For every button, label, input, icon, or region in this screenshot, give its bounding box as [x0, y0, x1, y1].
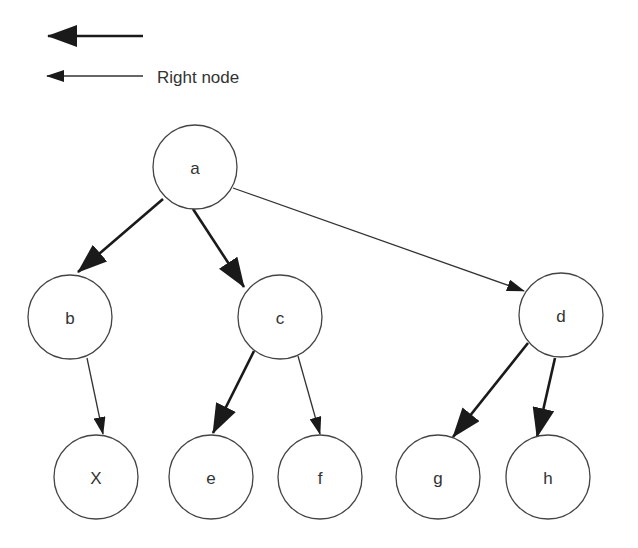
node-e: e — [169, 435, 253, 519]
legend-label-right-node: Right node — [157, 68, 239, 87]
node-x: X — [54, 435, 138, 519]
edge-a-b — [78, 199, 163, 272]
node-a-label: a — [190, 159, 200, 178]
node-e-label: e — [206, 469, 215, 488]
edge-b-x — [87, 358, 103, 434]
node-d-label: d — [556, 307, 565, 326]
node-a: a — [153, 125, 237, 209]
node-h: h — [506, 435, 590, 519]
node-x-label: X — [90, 469, 101, 488]
legend: Right node — [47, 36, 239, 87]
node-d: d — [519, 273, 603, 357]
tree-diagram: Right node a b c d X — [0, 0, 638, 548]
node-c: c — [238, 275, 322, 359]
edge-d-h — [537, 358, 555, 437]
legend-item-thin: Right node — [47, 68, 239, 87]
edge-d-g — [453, 343, 528, 437]
node-g-label: g — [433, 469, 442, 488]
edge-c-f — [298, 356, 320, 434]
node-c-label: c — [276, 309, 285, 328]
node-b-label: b — [65, 309, 74, 328]
node-b: b — [28, 275, 112, 359]
node-f-label: f — [318, 469, 323, 488]
node-h-label: h — [543, 469, 552, 488]
edge-c-e — [213, 351, 254, 433]
node-f: f — [278, 435, 362, 519]
edge-a-c — [193, 209, 244, 287]
node-g: g — [396, 435, 480, 519]
